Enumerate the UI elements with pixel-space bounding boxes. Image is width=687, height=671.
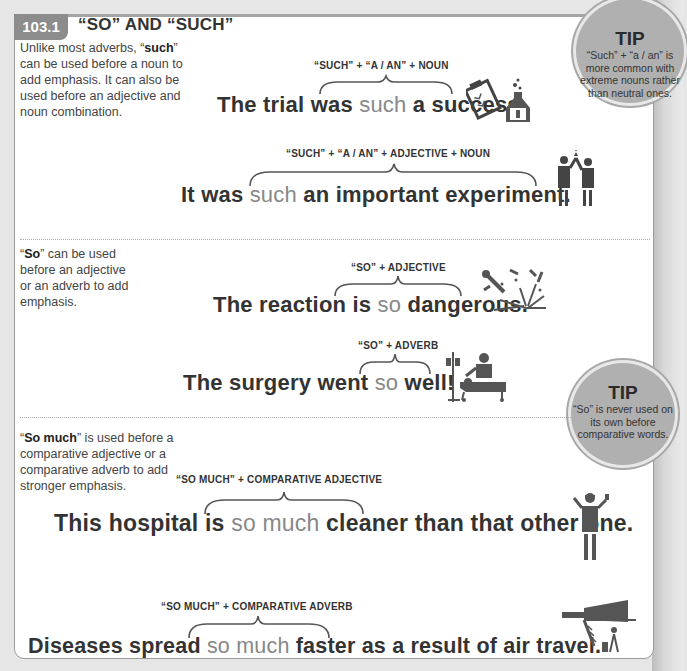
section-divider xyxy=(20,417,575,418)
formula-so-adjective: “SO” + ADJECTIVE xyxy=(351,262,446,273)
formula-so-much-comparative-adjective: “SO MUCH” + COMPARATIVE ADJECTIVE xyxy=(176,474,382,485)
airplane-traveler-icon xyxy=(562,600,638,656)
example-sentence-diseases: Diseases spread so much faster as a resu… xyxy=(28,634,601,659)
description-so-much: “So much” is used before a comparative a… xyxy=(20,430,180,494)
example-sentence-surgery: The surgery went so well! xyxy=(183,370,455,396)
explosion-icon xyxy=(480,268,550,316)
formula-such-noun: “SUCH” + “A / AN” + NOUN xyxy=(314,60,449,71)
clipboard-and-flask-icon xyxy=(466,76,534,124)
formula-so-much-comparative-adverb: “SO MUCH” + COMPARATIVE ADVERB xyxy=(161,601,353,612)
tip-callout-so: TIP “So” is never used on its own before… xyxy=(568,360,678,468)
section-number-badge: 103.1 xyxy=(14,14,68,40)
page-edge-shadow xyxy=(652,0,683,671)
formula-such-adjective-noun: “SUCH” + “A / AN” + ADJECTIVE + NOUN xyxy=(286,148,490,159)
doctor-icon xyxy=(572,490,612,562)
example-sentence-experiment: It was such an important experiment. xyxy=(181,182,571,208)
description-such: Unlike most adverbs, “such” can be used … xyxy=(20,40,190,120)
example-sentence-hospital: This hospital is so much cleaner than th… xyxy=(54,510,633,537)
tip-callout-such: TIP “Such” + “a / an” is more common wit… xyxy=(573,0,687,106)
scientists-celebrating-icon xyxy=(554,150,600,208)
section-title: “SO” AND “SUCH” xyxy=(78,15,233,35)
section-divider xyxy=(20,239,650,240)
surgery-patient-icon xyxy=(446,352,510,402)
description-so: “So” can be used before an adjective or … xyxy=(20,246,130,310)
formula-so-adverb: “SO” + ADVERB xyxy=(358,340,438,351)
